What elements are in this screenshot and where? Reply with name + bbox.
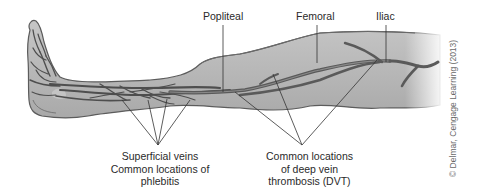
label-superficial-veins: Superficial veins Common locations of ph… — [110, 150, 210, 188]
superficial-label-line-1: Superficial veins — [110, 150, 210, 163]
copyright-credit: © Delmar, Cengage Learning (2013) — [448, 40, 458, 177]
label-dvt: Common locations of deep vein thrombosis… — [262, 150, 357, 188]
label-iliac: Iliac — [376, 10, 395, 23]
label-popliteal: Popliteal — [203, 10, 243, 23]
label-femoral: Femoral — [296, 10, 335, 23]
dvt-label-line-2: of deep vein — [262, 163, 357, 176]
superficial-label-line-2: Common locations of — [110, 163, 210, 176]
leg-illustration — [0, 0, 481, 195]
dvt-label-line-1: Common locations — [262, 150, 357, 163]
superficial-label-line-3: phlebitis — [110, 175, 210, 188]
dvt-label-line-3: thrombosis (DVT) — [262, 175, 357, 188]
leg-shape — [28, 21, 445, 120]
leg-veins-diagram: Popliteal Femoral Iliac Superficial vein… — [0, 0, 481, 195]
